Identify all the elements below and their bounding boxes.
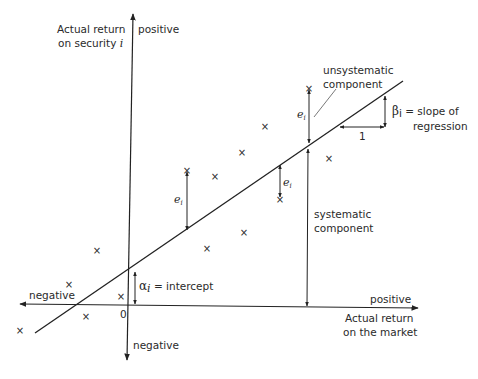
beta-slope-label-line2: regression bbox=[413, 120, 468, 132]
data-point: × bbox=[276, 194, 284, 205]
residual-label: ei bbox=[297, 108, 306, 122]
residual-label: ei bbox=[283, 176, 292, 190]
x-axis-title-line1: Actual return bbox=[345, 312, 413, 324]
data-point: × bbox=[203, 243, 211, 254]
y-axis-positive-label: positive bbox=[138, 23, 179, 35]
regression-line bbox=[35, 81, 403, 333]
systematic-label-line1: systematic bbox=[314, 208, 371, 220]
y-axis bbox=[127, 14, 133, 360]
data-point: × bbox=[261, 121, 269, 132]
y-axis-negative-label: negative bbox=[133, 339, 179, 351]
unsystematic-label-line1: unsystematic bbox=[323, 64, 394, 76]
data-point: × bbox=[238, 147, 246, 158]
beta-slope-label-line1: βi = slope of bbox=[392, 104, 459, 119]
unsystematic-label-line2: component bbox=[323, 78, 382, 90]
systematic-arrow bbox=[307, 149, 308, 306]
security-characteristic-line-diagram: × × × × × × × × × × × × × × Actual retur… bbox=[0, 0, 478, 379]
x-axis-positive-label: positive bbox=[370, 293, 411, 305]
x-axis-title-line2: on the market bbox=[343, 326, 417, 338]
residual-label: ei bbox=[174, 193, 183, 207]
x-axis bbox=[20, 304, 418, 308]
run-label: 1 bbox=[359, 130, 366, 142]
x-axis-negative-label: negative bbox=[29, 289, 75, 301]
y-axis-title-line1: Actual return bbox=[57, 23, 125, 35]
data-point: × bbox=[305, 83, 313, 94]
data-point: × bbox=[16, 325, 24, 336]
data-point: × bbox=[211, 171, 219, 182]
origin-label: 0 bbox=[120, 308, 127, 320]
unsystematic-leader bbox=[314, 89, 336, 117]
data-point: × bbox=[325, 153, 333, 164]
alpha-intercept-label: αi = intercept bbox=[139, 279, 213, 295]
data-point: × bbox=[93, 245, 101, 256]
data-point: × bbox=[240, 227, 248, 238]
data-point: × bbox=[82, 311, 90, 322]
data-point: × bbox=[117, 291, 125, 302]
y-axis-title-line2: on security i bbox=[58, 37, 123, 50]
systematic-label-line2: component bbox=[314, 222, 373, 234]
data-point: × bbox=[183, 165, 191, 176]
